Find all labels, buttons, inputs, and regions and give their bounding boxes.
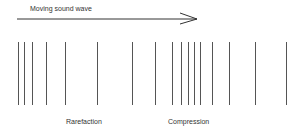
compression-label: Compression <box>168 118 209 125</box>
sound-wave-diagram: Moving sound wave Rarefaction Compressio… <box>0 0 300 134</box>
compression-lines <box>19 42 287 105</box>
wave-graphic <box>0 0 300 134</box>
arrow-icon <box>17 13 197 24</box>
rarefaction-label: Rarefaction <box>66 118 102 125</box>
